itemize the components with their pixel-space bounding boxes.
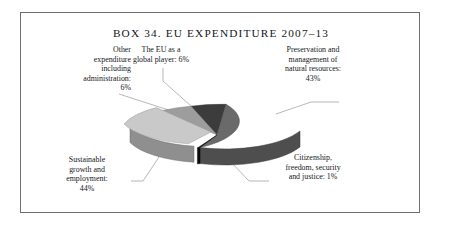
label-global-player: The EU as aglobal player: 6% bbox=[105, 45, 217, 64]
box-figure-frame: BOX 34. EU EXPENDITURE 2007–13 bbox=[20, 12, 420, 213]
pie-side-citizenship bbox=[197, 148, 200, 164]
label-preservation: Preservation andmanagement ofnatural res… bbox=[249, 45, 377, 83]
label-sustainable-growth: Sustainablegrowth andemployment:44% bbox=[27, 155, 147, 193]
label-citizenship: Citizenship,freedom, securityand justice… bbox=[249, 153, 377, 182]
leader-line-global bbox=[163, 68, 191, 106]
pie-chart: Otherexpenditureincludingadministration:… bbox=[21, 13, 421, 214]
leader-line-preservation bbox=[276, 102, 339, 114]
